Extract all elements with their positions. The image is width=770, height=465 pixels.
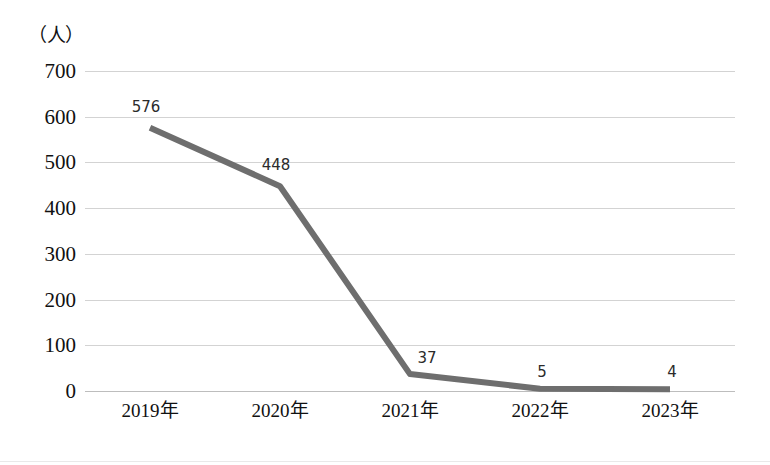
x-tick-label-2020年: 2020年	[252, 401, 309, 420]
gridline-100	[85, 345, 735, 346]
plot-area	[85, 71, 735, 391]
y-tick-label: 500	[16, 152, 76, 173]
line-chart: （人） 0100200300400500600700 5764483754 20…	[0, 0, 770, 465]
y-tick-label: 200	[16, 289, 76, 310]
data-label-2022年: 5	[537, 365, 547, 380]
page-edge-artifact	[0, 461, 770, 462]
gridline-0	[85, 391, 735, 392]
x-tick-label-2022年: 2022年	[512, 401, 569, 420]
x-tick-label-2019年: 2019年	[122, 401, 179, 420]
x-tick-label-2023年: 2023年	[642, 401, 699, 420]
gridline-200	[85, 300, 735, 301]
data-label-2019年: 576	[132, 100, 161, 115]
y-tick-label: 400	[16, 198, 76, 219]
y-tick-label: 0	[16, 381, 76, 402]
gridline-700	[85, 71, 735, 72]
gridline-600	[85, 117, 735, 118]
gridline-500	[85, 162, 735, 163]
x-tick-label-2021年: 2021年	[382, 401, 439, 420]
data-label-2021年: 37	[417, 351, 436, 366]
y-axis-unit-label: （人）	[28, 26, 84, 45]
y-tick-label: 600	[16, 106, 76, 127]
gridline-300	[85, 254, 735, 255]
y-tick-label: 300	[16, 243, 76, 264]
data-label-2023年: 4	[667, 365, 677, 380]
y-tick-label: 100	[16, 335, 76, 356]
y-tick-label: 700	[16, 61, 76, 82]
gridline-400	[85, 208, 735, 209]
data-label-2020年: 448	[262, 158, 291, 173]
